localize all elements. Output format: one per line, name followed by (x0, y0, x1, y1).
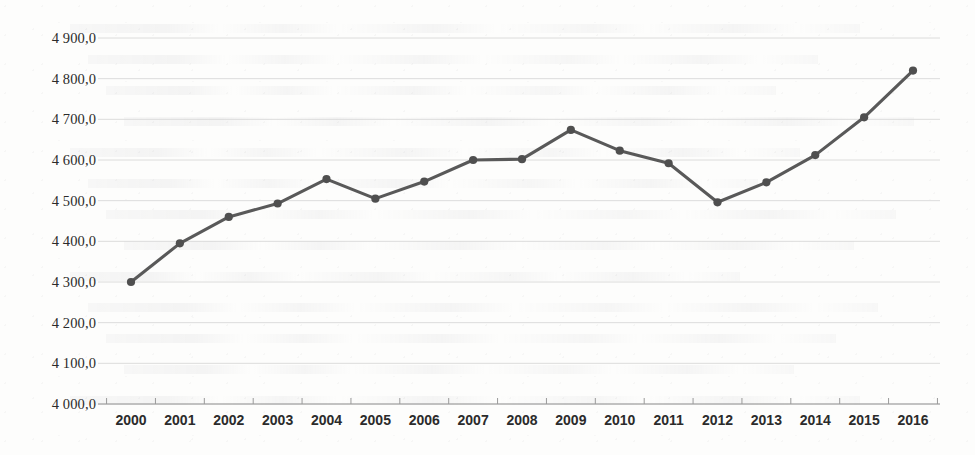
x-axis-tick-label: 2002 (213, 412, 244, 428)
x-axis-tick-label: 2010 (604, 412, 635, 428)
chart-page: 4 900,04 800,04 700,04 600,04 500,04 400… (0, 0, 975, 455)
y-axis-tick-label: 4 500,0 (52, 192, 96, 209)
x-axis-tick-label: 2001 (164, 412, 195, 428)
data-point-marker (127, 278, 135, 286)
y-axis-tick-label: 4 300,0 (52, 274, 96, 291)
y-axis-tick-label: 4 600,0 (52, 152, 96, 169)
y-axis-tick-label: 4 800,0 (52, 70, 96, 87)
x-axis-tick-label: 2007 (458, 412, 489, 428)
x-axis-tick-label: 2012 (702, 412, 733, 428)
data-point-marker (811, 151, 819, 159)
data-point-marker (225, 213, 233, 221)
series-line (131, 71, 913, 282)
axis-group (98, 398, 940, 404)
data-point-marker (274, 199, 282, 207)
data-markers-group (127, 66, 917, 286)
data-point-marker (665, 159, 673, 167)
x-axis-tick-label: 2011 (653, 412, 683, 428)
x-axis-tick-label: 2013 (751, 412, 782, 428)
y-axis-tick-label: 4 900,0 (52, 30, 96, 47)
x-axis-tick-label: 2016 (897, 412, 928, 428)
data-point-marker (909, 66, 917, 74)
data-point-marker (762, 178, 770, 186)
data-point-marker (518, 155, 526, 163)
y-axis-tick-label: 4 700,0 (52, 111, 96, 128)
line-chart: 4 900,04 800,04 700,04 600,04 500,04 400… (0, 0, 975, 455)
data-point-marker (176, 239, 184, 247)
data-point-marker (616, 147, 624, 155)
data-point-marker (860, 113, 868, 121)
y-axis-tick-label: 4 200,0 (52, 314, 96, 331)
y-axis-tick-label: 4 000,0 (52, 396, 96, 413)
chart-plot-svg (0, 0, 975, 455)
data-point-marker (420, 177, 428, 185)
x-axis-tick-label: 2005 (360, 412, 391, 428)
data-series-group (131, 71, 913, 282)
data-point-marker (713, 198, 721, 206)
x-axis-tick-label: 2009 (555, 412, 586, 428)
data-point-marker (322, 175, 330, 183)
x-axis-tick-label: 2000 (115, 412, 146, 428)
x-axis-tick-label: 2004 (311, 412, 342, 428)
x-axis-tick-label: 2008 (506, 412, 537, 428)
data-point-marker (567, 126, 575, 134)
x-axis-tick-label: 2003 (262, 412, 293, 428)
y-axis-tick-label: 4 100,0 (52, 355, 96, 372)
data-point-marker (371, 195, 379, 203)
y-axis-tick-label: 4 400,0 (52, 233, 96, 250)
x-axis-tick-label: 2006 (409, 412, 440, 428)
x-axis-tick-label: 2015 (849, 412, 880, 428)
data-point-marker (469, 156, 477, 164)
x-axis-tick-label: 2014 (800, 412, 831, 428)
